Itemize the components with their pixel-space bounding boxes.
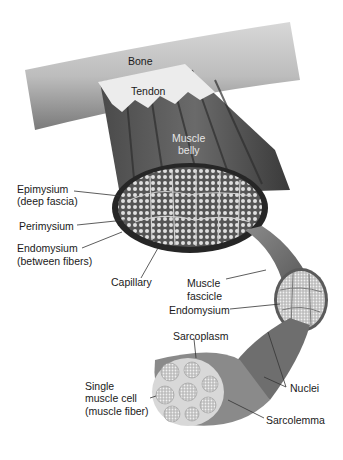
label-muscle-belly-1: Muscle xyxy=(172,132,205,144)
label-endomysium-2: (between fibers) xyxy=(17,255,92,267)
muscle-cross-section xyxy=(112,163,268,253)
label-tendon: Tendon xyxy=(131,85,165,97)
label-endomysium-1: Endomysium xyxy=(17,242,78,254)
label-nuclei: Nuclei xyxy=(290,382,319,394)
label-capillary: Capillary xyxy=(111,276,152,288)
label-single-cell-3: (muscle fiber) xyxy=(85,405,149,417)
label-sarcoplasm: Sarcoplasm xyxy=(173,330,228,342)
label-perimysium: Perimysium xyxy=(19,220,74,232)
muscle-fascicle xyxy=(245,226,328,332)
label-epimysium-1: Epimysium xyxy=(17,183,68,195)
label-epimysium-2: (deep fascia) xyxy=(17,195,78,207)
label-single-cell-1: Single xyxy=(85,380,114,392)
label-muscle-fascicle-1: Muscle xyxy=(187,277,220,289)
label-sarcolemma: Sarcolemma xyxy=(266,414,325,426)
label-endomysium-fascicle: Endomysium xyxy=(169,304,230,316)
label-single-cell-2: muscle cell xyxy=(85,392,137,404)
label-muscle-fascicle-2: fascicle xyxy=(187,290,222,302)
label-muscle-belly-2: belly xyxy=(178,144,200,156)
label-bone: Bone xyxy=(128,55,153,67)
